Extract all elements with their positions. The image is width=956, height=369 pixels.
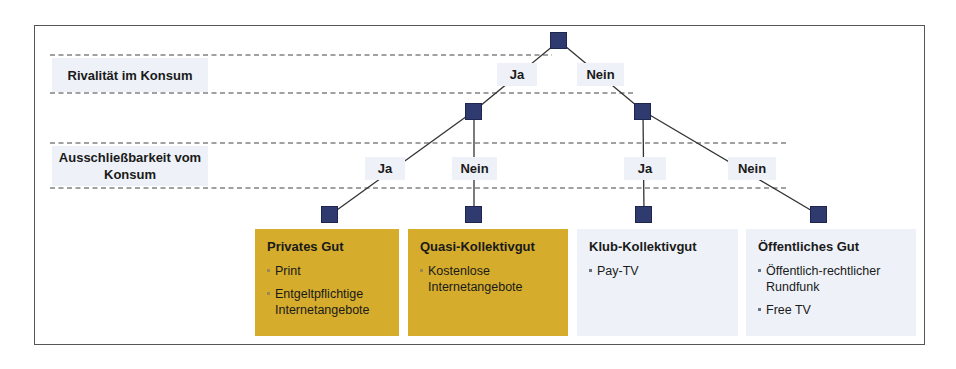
outcome-box-club-good: Klub-Kollektivgut Pay-TV [577,229,738,336]
outcome-item: Kostenlose Internetangebote [420,263,558,295]
outcome-title: Klub-Kollektivgut [589,239,728,254]
outcome-title: Privates Gut [267,239,389,254]
branch-label-rivalry-no: Nein [577,63,624,86]
outcome-item: Pay-TV [589,263,728,279]
outcome-title: Quasi-Kollektivgut [420,239,558,254]
outcome-box-quasi-collective-good: Quasi-Kollektivgut Kostenlose Internetan… [408,229,568,336]
branch-label-rivalry-yes: Ja [497,63,537,86]
leaf-node-club [635,206,652,223]
outcome-box-public-good: Öffentliches Gut Öffentlich-rechtlicher … [746,229,916,336]
outcome-box-private-good: Privates Gut Print Entgeltpflichtige Int… [255,229,399,336]
leaf-node-public [810,206,827,223]
outcome-item: Öffentlich-rechtlicher Rundfunk [758,263,906,295]
node-nonrival [634,103,651,120]
rivalry-axis-label: Rivalität im Konsum [52,58,208,92]
root-node [550,32,567,49]
branch-label-excl-no-right: Nein [728,157,776,180]
branch-label-excl-no-left: Nein [452,157,497,180]
leaf-node-private [321,206,338,223]
outcome-title: Öffentliches Gut [758,239,906,254]
leaf-node-quasi [465,206,482,223]
branch-label-excl-yes-left: Ja [365,157,405,180]
outcome-item: Free TV [758,302,906,318]
branch-label-excl-yes-right: Ja [624,157,666,180]
outcome-item: Print [267,263,389,279]
excludability-axis-label: Ausschließbarkeit vom Konsum [52,146,208,186]
outcome-item: Entgeltpflichtige Internetangebote [267,286,389,318]
node-rival [465,103,482,120]
